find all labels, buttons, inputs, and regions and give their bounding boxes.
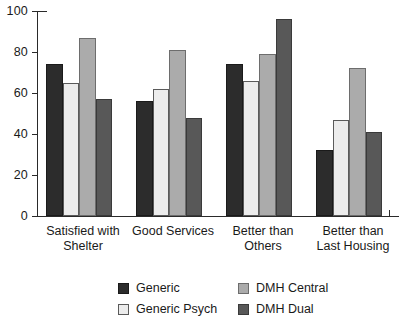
x-axis-category-labels: Satisfied withShelterGood ServicesBetter… bbox=[38, 224, 398, 260]
y-axis-tick-label: 60 bbox=[0, 87, 28, 99]
x-axis-line bbox=[37, 216, 399, 217]
legend-label: Generic bbox=[136, 282, 180, 295]
category-label-line-1: Satisfied with bbox=[46, 224, 120, 238]
category-label-line-1: Good Services bbox=[132, 224, 214, 238]
category-label-line-2: Shelter bbox=[38, 239, 128, 254]
bar bbox=[46, 64, 63, 216]
x-axis-category-label: Better thanOthers bbox=[218, 224, 308, 254]
plot-area bbox=[38, 11, 398, 216]
y-axis-tick-label: 40 bbox=[0, 128, 28, 140]
bar bbox=[96, 99, 113, 216]
bar bbox=[243, 81, 260, 216]
x-axis-category-label: Good Services bbox=[128, 224, 218, 239]
bar bbox=[366, 132, 383, 216]
legend-item: DMH Dual bbox=[238, 301, 314, 317]
legend-item: DMH Central bbox=[238, 280, 328, 296]
legend-color-swatch bbox=[118, 304, 129, 315]
bar bbox=[316, 150, 333, 216]
category-label-line-1: Better than bbox=[322, 224, 383, 238]
x-axis-category-label: Satisfied withShelter bbox=[38, 224, 128, 254]
bar bbox=[226, 64, 243, 216]
chart-legend: GenericGeneric PsychDMH CentralDMH Dual bbox=[118, 280, 358, 322]
legend-color-swatch bbox=[118, 283, 129, 294]
bar bbox=[136, 101, 153, 216]
bar bbox=[79, 38, 96, 216]
legend-color-swatch bbox=[238, 304, 249, 315]
legend-color-swatch bbox=[238, 283, 249, 294]
bar bbox=[276, 19, 293, 216]
category-label-line-1: Better than bbox=[232, 224, 293, 238]
bar bbox=[259, 54, 276, 216]
bar bbox=[349, 68, 366, 216]
bar bbox=[169, 50, 186, 216]
y-axis-tick-label: 100 bbox=[0, 5, 28, 17]
legend-item: Generic Psych bbox=[118, 301, 217, 317]
bar bbox=[63, 83, 80, 216]
y-axis-tick-label: 0 bbox=[0, 210, 28, 222]
legend-item: Generic bbox=[118, 280, 180, 296]
bar-chart: 020406080100 Satisfied withShelterGood S… bbox=[0, 0, 402, 329]
y-axis-tick-label: 80 bbox=[0, 46, 28, 58]
legend-label: Generic Psych bbox=[136, 303, 217, 316]
x-axis-category-label: Better thanLast Housing bbox=[308, 224, 398, 254]
legend-label: DMH Central bbox=[256, 282, 328, 295]
bar bbox=[153, 89, 170, 216]
bar bbox=[186, 118, 203, 216]
y-axis-tick-mark bbox=[32, 216, 38, 217]
legend-label: DMH Dual bbox=[256, 303, 314, 316]
category-label-line-2: Last Housing bbox=[308, 239, 398, 254]
category-label-line-2: Others bbox=[218, 239, 308, 254]
bar bbox=[333, 120, 350, 216]
y-axis-tick-label: 20 bbox=[0, 169, 28, 181]
